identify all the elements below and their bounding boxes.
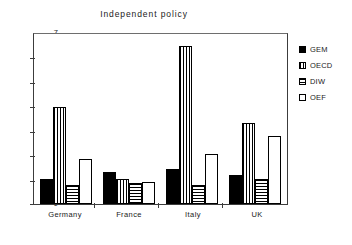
bar-italy-gem [166, 169, 179, 204]
bar-france-diw [129, 183, 142, 204]
legend-swatch-solid-icon [299, 46, 306, 53]
bar-uk-oecd [242, 123, 255, 204]
x-tick-label-germany: Germany [33, 210, 97, 219]
legend-item-gem: GEM [299, 41, 349, 57]
page-title: Independent policy [0, 9, 288, 19]
bar-germany-diw [66, 185, 79, 204]
bar-uk-oef [268, 136, 281, 204]
bar-france-gem [103, 172, 116, 204]
x-tick-label-france: France [97, 210, 161, 219]
legend-label: DIW [310, 77, 325, 86]
legend-swatch-vertical-lines-icon [299, 62, 306, 69]
bar-italy-oecd [179, 46, 192, 204]
bar-uk-diw [255, 179, 268, 205]
bar-germany-gem [40, 179, 53, 205]
legend-label: GEM [310, 45, 328, 54]
legend-item-diw: DIW [299, 73, 349, 89]
legend: GEM OECD DIW OEF [299, 41, 349, 105]
bars-container [34, 34, 287, 204]
x-tick-label-uk: UK [225, 210, 289, 219]
legend-label: OECD [310, 61, 332, 70]
legend-label: OEF [310, 93, 326, 102]
x-tick-label-italy: Italy [161, 210, 225, 219]
bar-italy-diw [192, 185, 205, 204]
bar-germany-oef [79, 159, 92, 204]
y-axis-tick [30, 204, 35, 205]
bar-chart-figure: Independent policy 7 6 5 4 3 2 1 0 [0, 0, 352, 245]
bar-france-oef [142, 182, 155, 204]
legend-swatch-empty-icon [299, 94, 306, 101]
legend-swatch-horizontal-lines-icon [299, 78, 306, 85]
bar-italy-oef [205, 154, 218, 204]
legend-item-oef: OEF [299, 89, 349, 105]
bar-france-oecd [116, 179, 129, 205]
plot-area [33, 33, 288, 205]
bar-uk-gem [229, 175, 242, 204]
legend-item-oecd: OECD [299, 57, 349, 73]
bar-germany-oecd [53, 107, 66, 204]
